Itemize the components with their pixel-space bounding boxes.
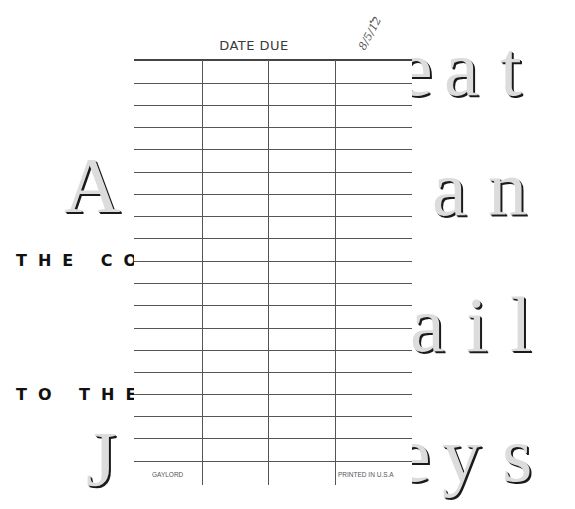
grid-row-line [134, 394, 412, 395]
card-footer-printed: PRINTED IN U.S.A [338, 471, 394, 478]
grid-row-line [134, 83, 412, 84]
title-letter-a-1: a [444, 30, 479, 108]
title-letter-y-4: y [442, 416, 481, 494]
grid-row-line [134, 416, 412, 417]
grid-row-line [134, 283, 412, 284]
grid-row-line [134, 172, 412, 173]
title-letter-a-3: a [410, 286, 445, 364]
grid-column-line [202, 60, 203, 485]
grid-row-line [134, 328, 412, 329]
title-letter-l-3: l [510, 286, 532, 364]
title-letter-n-2: n [488, 150, 527, 228]
grid-row-line [134, 261, 412, 262]
title-letter-A: A [64, 146, 120, 224]
subtitle-line-2: TO THE [16, 385, 147, 404]
grid-row-line [134, 149, 412, 150]
grid-column-line [335, 60, 336, 485]
grid-column-line [268, 60, 269, 485]
title-letter-s-4: s [502, 416, 532, 494]
grid-row-line [134, 194, 412, 195]
title-letter-a-2: a [432, 150, 467, 228]
grid-row-line [134, 216, 412, 217]
card-header-rule [134, 59, 412, 61]
date-due-card: DATE DUE GAYLORD PRINTED IN U.S.A [134, 0, 412, 490]
card-title: DATE DUE [134, 38, 374, 53]
grid-row-line [134, 305, 412, 306]
grid-row-line [134, 238, 412, 239]
grid-row-line [134, 461, 412, 462]
grid-row-line [134, 105, 412, 106]
title-letter-i-3: i [466, 286, 488, 364]
grid-row-line [134, 350, 412, 351]
grid-row-line [134, 127, 412, 128]
grid-row-line [134, 372, 412, 373]
grid-row-line [134, 438, 412, 439]
card-footer-brand: GAYLORD [152, 471, 183, 478]
title-letter-t-1: t [500, 30, 522, 108]
title-letter-J: J [86, 420, 116, 498]
